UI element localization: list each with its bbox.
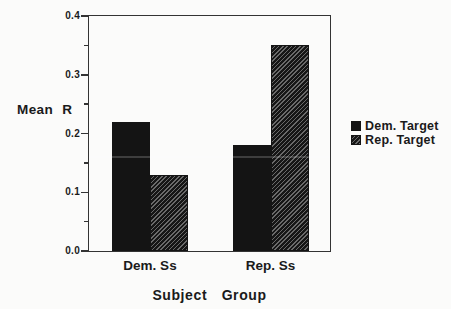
plot-area (88, 15, 331, 252)
y-axis-tick-mark (81, 15, 89, 17)
category-label-rep-ss: Rep. Ss (226, 258, 316, 273)
bar-dem-ss-dem-target (112, 122, 150, 251)
y-axis-minor-tick-mark (84, 221, 89, 223)
figure-root: Mean R 0.00.10.20.30.4 Subject Group Dem… (0, 0, 451, 309)
y-axis-tick-mark (81, 250, 89, 252)
legend-swatch-solid-icon (351, 121, 361, 131)
y-axis-tick-label: 0.0 (40, 245, 80, 257)
y-axis-minor-tick-mark (84, 45, 89, 47)
y-axis-tick-mark (81, 192, 89, 194)
category-label-dem-ss: Dem. Ss (105, 258, 195, 273)
y-axis-tick-label: 0.4 (40, 10, 80, 22)
y-axis-minor-tick-mark (84, 162, 89, 164)
y-axis-tick-label: 0.3 (40, 69, 80, 81)
y-axis-tick-mark (81, 74, 89, 76)
x-axis-title: Subject Group (88, 287, 331, 303)
legend-swatch-hatch-icon (351, 135, 361, 145)
y-axis-labels: 0.00.10.20.30.4 (40, 16, 80, 251)
legend-item: Dem. Target (351, 120, 439, 132)
legend: Dem. TargetRep. Target (351, 120, 439, 148)
bar-dem-ss-rep-target (150, 175, 188, 251)
legend-label: Rep. Target (365, 133, 435, 147)
y-axis-tick-label: 0.2 (40, 128, 80, 140)
bar-rep-ss-dem-target (233, 145, 271, 251)
bar-rep-ss-rep-target (271, 45, 309, 251)
y-axis-tick-label: 0.1 (40, 186, 80, 198)
y-axis-minor-tick-mark (84, 103, 89, 105)
legend-item: Rep. Target (351, 134, 439, 146)
legend-label: Dem. Target (365, 119, 439, 133)
y-axis-tick-mark (81, 133, 89, 135)
